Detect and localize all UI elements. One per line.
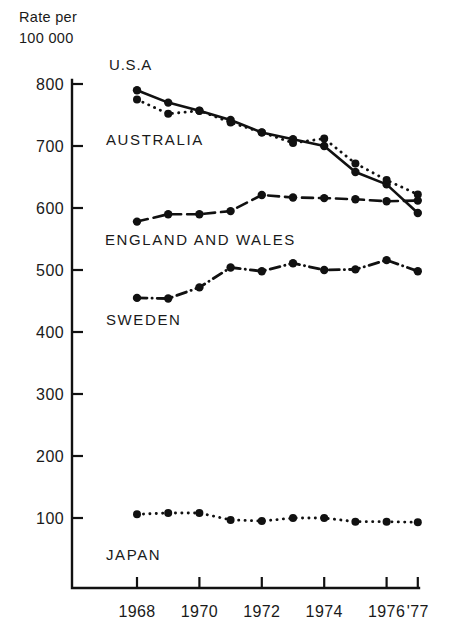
- y-tick-label: 300: [36, 386, 64, 403]
- series-sweden: [133, 256, 422, 303]
- chart-canvas: Rate per 100 000 80070060050040030020010…: [0, 0, 467, 641]
- data-point: [351, 195, 359, 203]
- data-point: [289, 193, 297, 201]
- series-label-australia: AUSTRALIA: [106, 131, 204, 148]
- line-chart: Rate per 100 000 80070060050040030020010…: [0, 0, 467, 641]
- data-point: [351, 265, 359, 273]
- series-line: [137, 90, 418, 213]
- data-point: [289, 139, 297, 147]
- y-tick-label: 600: [36, 200, 64, 217]
- series-line: [137, 260, 418, 298]
- data-point: [351, 168, 359, 176]
- data-point: [258, 517, 266, 525]
- x-axis-ticks: [137, 577, 418, 588]
- data-point: [164, 210, 172, 218]
- series-england-and-wales: [133, 191, 422, 226]
- data-point: [383, 518, 391, 526]
- data-point: [164, 294, 172, 302]
- data-point: [195, 107, 203, 115]
- data-point: [320, 194, 328, 202]
- data-point: [227, 516, 235, 524]
- data-point: [133, 294, 141, 302]
- data-point: [382, 197, 390, 205]
- x-tick-label: '77: [407, 603, 429, 620]
- series-annotations: U.S.AAUSTRALIAENGLAND AND WALESSWEDENJAP…: [105, 56, 296, 563]
- y-axis-title-line1: Rate per: [19, 9, 77, 25]
- y-tick-label: 800: [36, 76, 64, 93]
- axis-lines: [72, 80, 419, 588]
- data-point: [351, 518, 359, 526]
- data-point: [414, 267, 422, 275]
- y-tick-label: 200: [36, 448, 64, 465]
- data-point: [164, 110, 172, 118]
- data-point: [133, 96, 141, 104]
- series-layer: [133, 86, 422, 526]
- x-tick-label: 1972: [243, 603, 280, 620]
- x-axis-tick-labels: 19681970197219741976'77: [118, 603, 428, 620]
- y-axis-title-line2: 100 000: [19, 30, 74, 46]
- data-point: [320, 514, 328, 522]
- series-line: [137, 195, 418, 222]
- series-line: [137, 513, 418, 522]
- data-point: [320, 266, 328, 274]
- data-point: [226, 263, 234, 271]
- data-point: [164, 98, 172, 106]
- data-point: [382, 256, 390, 264]
- data-point: [383, 176, 391, 184]
- data-point: [133, 510, 141, 518]
- data-point: [320, 135, 328, 143]
- data-point: [226, 207, 234, 215]
- data-point: [414, 209, 422, 217]
- y-tick-label: 400: [36, 324, 64, 341]
- x-tick-label: 1976: [368, 603, 405, 620]
- data-point: [164, 509, 172, 517]
- y-tick-label: 700: [36, 138, 64, 155]
- data-point: [195, 509, 203, 517]
- data-point: [195, 283, 203, 291]
- data-point: [351, 159, 359, 167]
- y-axis-ticks: [72, 84, 83, 518]
- data-point: [258, 191, 266, 199]
- data-point: [320, 142, 328, 150]
- data-point: [289, 259, 297, 267]
- data-point: [414, 196, 422, 204]
- series-label-england-and-wales: ENGLAND AND WALES: [105, 231, 296, 248]
- data-point: [195, 210, 203, 218]
- x-tick-label: 1970: [181, 603, 218, 620]
- data-point: [414, 518, 422, 526]
- series-label-sweden: SWEDEN: [106, 311, 181, 328]
- x-tick-label: 1974: [306, 603, 343, 620]
- data-point: [133, 86, 141, 94]
- data-point: [227, 118, 235, 126]
- data-point: [289, 514, 297, 522]
- series-japan: [133, 509, 422, 526]
- data-point: [258, 267, 266, 275]
- x-tick-label: 1968: [118, 603, 155, 620]
- y-tick-label: 500: [36, 262, 64, 279]
- series-label-japan: JAPAN: [106, 546, 161, 563]
- y-axis-tick-labels: 800700600500400300200100: [36, 76, 64, 527]
- series-label-u-s-a: U.S.A: [109, 56, 152, 73]
- data-point: [133, 217, 141, 225]
- data-point: [258, 128, 266, 136]
- y-tick-label: 100: [36, 510, 64, 527]
